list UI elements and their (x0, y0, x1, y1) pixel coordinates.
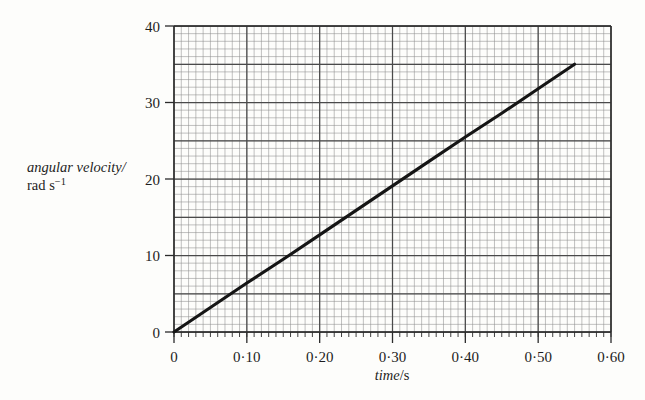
y-tick-label: 30 (145, 95, 160, 111)
x-axis-title: time/s (375, 367, 410, 383)
x-tick-label: 0·40 (452, 349, 480, 365)
figure-background (0, 0, 645, 400)
x-tick-label: 0·30 (379, 349, 407, 365)
y-tick-label: 40 (145, 19, 160, 35)
x-tick-label: 0·10 (233, 349, 261, 365)
x-tick-label: 0 (170, 349, 178, 365)
x-tick-label: 0·60 (597, 349, 625, 365)
x-tick-label: 0·50 (524, 349, 552, 365)
angular-velocity-time-graph: 00·100·200·300·400·500·60 010203040 angu… (0, 0, 645, 400)
y-tick-label: 20 (145, 172, 160, 188)
y-tick-label: 0 (153, 325, 161, 341)
y-tick-label: 10 (145, 248, 160, 264)
y-axis-title-line1: angular velocity/ (27, 159, 128, 175)
x-tick-label: 0·20 (306, 349, 334, 365)
